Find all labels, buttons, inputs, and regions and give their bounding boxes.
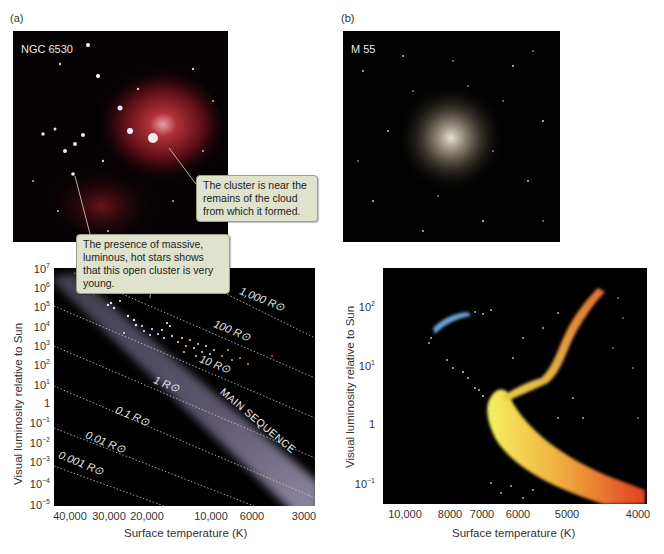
hr-plot-b-graphics <box>383 268 647 504</box>
xtick-b-10000: 10,000 <box>388 508 422 520</box>
photo-label-ngc6530: NGC 6530 <box>21 43 73 55</box>
xtick-b-6000: 6000 <box>506 508 530 520</box>
xtick-20000: 20,000 <box>130 510 164 522</box>
xtick-3000: 3000 <box>292 510 316 522</box>
ytick-1e-3: 10−3 <box>20 455 50 468</box>
xtick-b-8000: 8000 <box>438 508 462 520</box>
xtick-b-5000: 5000 <box>555 508 579 520</box>
ytick-1e1: 101 <box>20 378 50 391</box>
ytick-1e-5: 10−5 <box>20 498 50 511</box>
ytick-1e5: 105 <box>20 300 50 313</box>
ytick-1e6: 106 <box>20 281 50 294</box>
panel-b-letter: (b) <box>341 12 354 24</box>
xtick-40000: 40,000 <box>53 510 87 522</box>
xtick-6000: 6000 <box>240 510 264 522</box>
y-axis-label-b: Visual luminosity relative to Sun <box>344 306 356 468</box>
globular-cluster-image <box>343 31 560 242</box>
hr-diagram-m55 <box>383 268 647 504</box>
ytick-1: 1 <box>20 397 50 409</box>
x-axis-label-b: Surface temperature (K) <box>452 527 575 539</box>
xtick-b-7000: 7000 <box>470 508 494 520</box>
xtick-b-4000: 4000 <box>626 508 650 520</box>
panel-a-letter: (a) <box>10 12 23 24</box>
xtick-30000: 30,000 <box>92 510 126 522</box>
callout-cloud-remains: The cluster is near the remains of the c… <box>196 175 318 222</box>
ytick-1e7: 107 <box>20 262 50 275</box>
x-axis-label-a: Surface temperature (K) <box>124 527 247 539</box>
ytick-1e-2: 10−2 <box>20 436 50 449</box>
ytick-1e2: 102 <box>20 358 50 371</box>
ytick-1e-4: 10−4 <box>20 477 50 490</box>
ytick-1e4: 104 <box>20 320 50 333</box>
ytick-1e-1: 10−1 <box>20 416 50 429</box>
photo-label-m55: M 55 <box>351 43 375 55</box>
m55-photo: M 55 <box>343 31 560 242</box>
hr-diagram-ngc6530: 1,000 R⊙ 100 R⊙ 10 R⊙ 1 R⊙ 0.1 R⊙ 0.01 R… <box>54 268 315 506</box>
callout-young-cluster: The presence of massive, luminous, hot s… <box>76 234 230 294</box>
y-axis-label-a: Visual luminosity relative to Sun <box>12 323 24 485</box>
ytick-1e3: 103 <box>20 339 50 352</box>
xtick-10000: 10,000 <box>194 510 228 522</box>
ytick-b-1e-1: 10−1 <box>345 477 375 490</box>
